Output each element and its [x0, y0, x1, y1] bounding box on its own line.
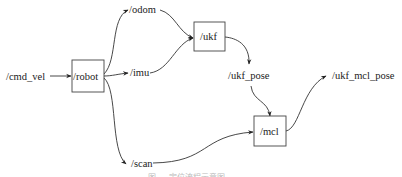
edge-scan-mcl — [153, 132, 253, 163]
edge-odom-ukf — [160, 10, 193, 38]
edge-imu-ukf — [150, 38, 193, 73]
edge-robot-odom — [104, 10, 128, 74]
node-imu: /imu — [130, 67, 150, 78]
node-odom: /odom — [129, 4, 156, 15]
edge-ukfpose-mcl — [251, 86, 270, 116]
node-ukf-pose: /ukf_pose — [228, 70, 270, 81]
ros-graph-diagram: /cmd_vel /robot /odom /imu /scan /ukf /u… — [0, 0, 402, 177]
node-ukf: /ukf — [200, 31, 217, 42]
edge-robot-scan — [104, 78, 126, 164]
node-cmd-vel: /cmd_vel — [6, 71, 45, 82]
node-robot: /robot — [73, 71, 98, 82]
node-ukf-mcl-pose: /ukf_mcl_pose — [332, 70, 395, 81]
edge-mcl-ukfmclpose — [286, 76, 326, 131]
node-mcl: /mcl — [260, 126, 279, 137]
node-scan: /scan — [131, 158, 153, 169]
edge-robot-imu — [104, 73, 128, 76]
edge-ukf-ukfpose — [225, 37, 249, 64]
figure-caption: 图 ... 定位流程示意图 — [148, 172, 225, 177]
